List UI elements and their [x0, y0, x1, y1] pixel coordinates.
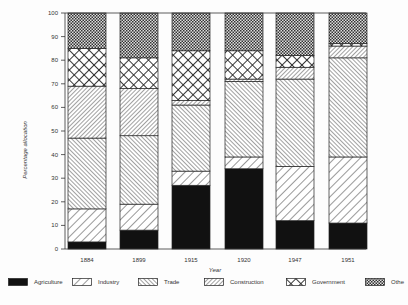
legend-swatch-construction [204, 278, 224, 286]
bar-segment-industry-1899 [120, 204, 158, 230]
bar-segment-other-1920 [225, 13, 263, 51]
bar-segment-trade-1951 [329, 58, 367, 157]
y-ticks-group: 0102030405060708090100 [48, 10, 65, 252]
bar-segment-agriculture-1947 [276, 221, 314, 249]
y-tick-label: 40 [51, 152, 58, 158]
bar-segment-government-1947 [276, 55, 314, 67]
y-tick-label: 0 [55, 246, 59, 252]
bar-segment-agriculture-1884 [68, 242, 106, 249]
bar-segment-trade-1899 [120, 136, 158, 204]
legend-swatch-agriculture [8, 278, 28, 286]
y-tick-label: 50 [51, 128, 58, 134]
y-axis-title: Percentage allocation [22, 120, 28, 178]
bar-segment-industry-1920 [225, 157, 263, 169]
legend-label: Trade [164, 279, 179, 285]
bar-segment-government-1920 [225, 51, 263, 79]
legend-item-other: Othe [365, 277, 404, 287]
bar-segment-construction-1915 [172, 100, 210, 105]
legend-label: Othe [391, 279, 404, 285]
bar-segment-trade-1947 [276, 79, 314, 166]
bar-segment-agriculture-1915 [172, 185, 210, 249]
x-tick-label: 1920 [237, 257, 251, 263]
x-tick-label: 1884 [80, 257, 94, 263]
bar-segment-trade-1884 [68, 138, 106, 209]
legend-swatch-trade [138, 278, 158, 286]
y-tick-label: 20 [51, 199, 58, 205]
bar-segment-other-1947 [276, 13, 314, 55]
bar-segment-agriculture-1899 [120, 230, 158, 249]
bar-segment-construction-1884 [68, 86, 106, 138]
y-tick-label: 10 [51, 222, 58, 228]
axes-group [65, 13, 366, 249]
legend-label: Agriculture [34, 279, 63, 285]
bar-segment-trade-1920 [225, 81, 263, 157]
x-tick-label: 1947 [288, 257, 302, 263]
legend-item-construction: Construction [204, 277, 264, 287]
y-tick-label: 70 [51, 81, 58, 87]
legend-item-agriculture: Agriculture [8, 277, 63, 287]
bar-segment-construction-1951 [329, 46, 367, 58]
legend-item-trade: Trade [138, 277, 179, 287]
bar-segment-government-1915 [172, 51, 210, 101]
bar-segment-construction-1920 [225, 79, 263, 81]
legend-label: Government [312, 279, 345, 285]
bar-segment-industry-1947 [276, 166, 314, 220]
bar-segment-agriculture-1920 [225, 169, 263, 249]
legend-swatch-other [365, 278, 385, 286]
y-tick-label: 30 [51, 175, 58, 181]
bar-segment-construction-1899 [120, 89, 158, 136]
bar-segment-other-1884 [68, 13, 106, 48]
x-ticks-group: 188418991915192019471951 [80, 257, 355, 263]
x-tick-label: 1951 [341, 257, 355, 263]
x-tick-label: 1899 [132, 257, 146, 263]
x-tick-label: 1915 [184, 257, 198, 263]
bar-segment-government-1951 [329, 44, 367, 46]
bar-segment-government-1899 [120, 58, 158, 89]
legend-label: Industry [98, 279, 119, 285]
bar-segment-industry-1915 [172, 171, 210, 185]
y-tick-label: 100 [48, 10, 59, 16]
y-tick-label: 90 [51, 34, 58, 40]
legend-label: Construction [230, 279, 264, 285]
bar-segment-government-1884 [68, 48, 106, 86]
bar-segment-agriculture-1951 [329, 223, 367, 249]
legend-item-government: Government [286, 277, 345, 287]
y-tick-label: 80 [51, 57, 58, 63]
bar-segment-construction-1947 [276, 67, 314, 79]
bars-group [68, 13, 367, 249]
bar-segment-other-1899 [120, 13, 158, 58]
legend-swatch-industry [72, 278, 92, 286]
bar-segment-other-1951 [329, 13, 367, 44]
legend: AgricultureIndustryTradeConstructionGove… [8, 277, 408, 291]
legend-item-industry: Industry [72, 277, 119, 287]
y-tick-label: 60 [51, 104, 58, 110]
bar-segment-other-1915 [172, 13, 210, 51]
bar-segment-industry-1884 [68, 209, 106, 242]
bar-segment-trade-1915 [172, 105, 210, 171]
bar-segment-industry-1951 [329, 157, 367, 223]
legend-swatch-government [286, 278, 306, 286]
x-axis-title: Year [209, 267, 222, 273]
